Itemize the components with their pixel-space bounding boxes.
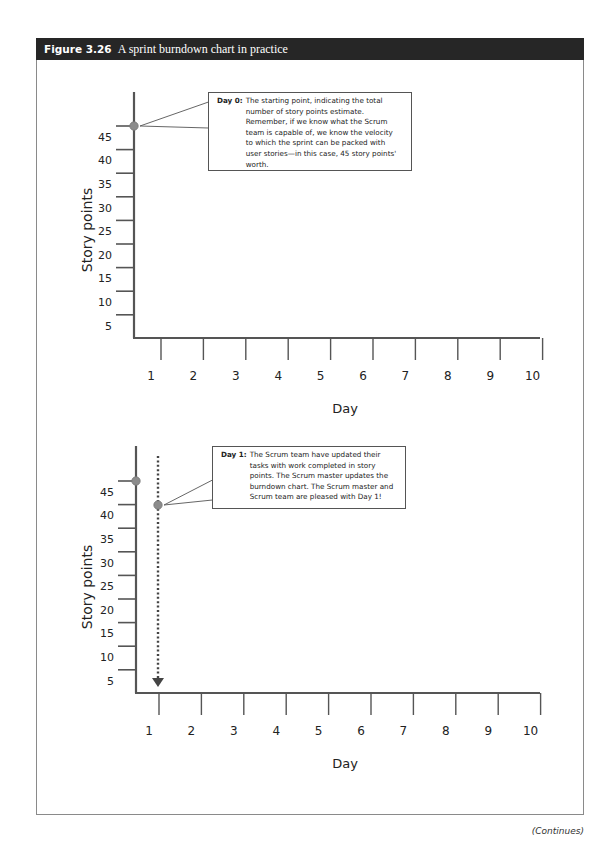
data-point [132, 477, 140, 485]
data-point [154, 501, 162, 509]
callout-line: team is capable of, we know the velocity [246, 128, 397, 139]
x-tick-label: 3 [230, 724, 238, 738]
continues-note: (Continues) [532, 826, 584, 836]
x-tick-label: 2 [188, 724, 196, 738]
callout-label: Day 1: [221, 450, 247, 503]
y-axis-title: Story points [79, 545, 95, 629]
y-tick-label: 40 [100, 509, 114, 522]
callout-line: The Scrum team have updated their [250, 450, 394, 461]
y-tick-label: 10 [100, 651, 114, 664]
x-tick-label: 4 [272, 724, 280, 738]
y-tick-label: 15 [100, 627, 114, 640]
callout-line: user stories—in this case, 45 story poin… [246, 149, 397, 160]
x-tick-label: 6 [357, 724, 365, 738]
x-axis-title: Day [332, 756, 358, 771]
callout-line: burndown chart. The Scrum master and [250, 482, 394, 493]
callout-day1: Day 1: The Scrum team have updated their… [212, 446, 406, 509]
x-tick-label: 10 [523, 724, 538, 738]
y-tick-label: 5 [107, 675, 114, 688]
x-tick-label: 8 [442, 724, 450, 738]
x-tick-label: 9 [484, 724, 492, 738]
x-tick-label: 7 [400, 724, 408, 738]
callout-line: to which the sprint can be packed with [246, 138, 397, 149]
y-tick-label: 30 [100, 557, 114, 570]
x-tick-label: 5 [315, 724, 323, 738]
x-tick-label: 1 [145, 724, 153, 738]
arrow-down-icon [152, 678, 164, 687]
callout-day0: Day 0: The starting point, indicating th… [208, 92, 412, 171]
y-tick-label: 25 [100, 580, 114, 593]
y-tick-label: 20 [100, 604, 114, 617]
callout-line: Scrum team are pleased with Day 1! [250, 492, 394, 503]
callout-line: Remember, if we know what the Scrum [246, 117, 397, 128]
callout-text: The starting point, indicating the total… [246, 96, 397, 170]
callout-line: tasks with work completed in story [250, 461, 394, 472]
callout-line: worth. [246, 160, 397, 171]
callout-label: Day 0: [217, 96, 243, 170]
y-tick-label: 35 [100, 533, 114, 546]
callout-line: points. The Scrum master updates the [250, 471, 394, 482]
y-tick-label: 45 [100, 486, 114, 499]
callout-line: number of story points estimate. [246, 107, 397, 118]
callout-text: The Scrum team have updated their tasks … [250, 450, 394, 503]
callout-line: The starting point, indicating the total [246, 96, 397, 107]
